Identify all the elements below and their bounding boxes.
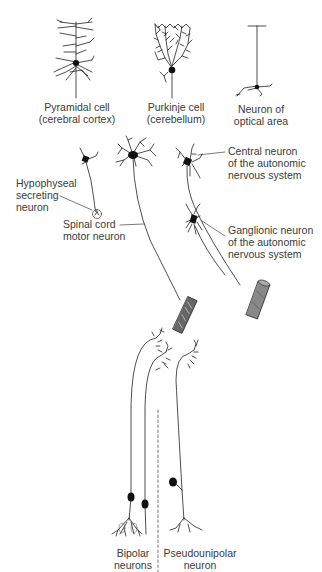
label-ganglionic-neuron: Ganglionic neuron of the autonomic nervo… — [228, 224, 313, 260]
purkinje-cell-drawing — [154, 24, 192, 98]
purkinje-soma — [169, 67, 176, 74]
label-optical-neuron: Neuron of optical area — [232, 103, 290, 127]
ganglionic-soma — [190, 214, 198, 223]
label-purkinje-cell: Purkinje cell (cerebellum) — [144, 101, 208, 125]
muscle-fiber-2 — [246, 279, 270, 319]
spinal-motor-neuron-drawing — [116, 136, 180, 300]
spinal-motor-soma — [128, 151, 138, 159]
bipolar-soma-2 — [142, 500, 149, 509]
hypophyseal-soma — [82, 155, 90, 163]
label-pyramidal-cell: Pyramidal cell (cerebral cortex) — [38, 101, 116, 125]
pyramidal-soma — [73, 60, 79, 66]
central-autonomic-soma — [183, 157, 192, 166]
label-pseudounipolar-neuron: Pseudounipolar neuron — [162, 547, 238, 571]
optical-neuron-drawing — [236, 26, 272, 96]
label-bipolar-neurons: Bipolar neurons — [112, 547, 154, 571]
label-central-autonomic-neuron: Central neuron of the autonomic nervous … — [228, 145, 306, 181]
label-hypophyseal-neuron: Hypophyseal secreting neuron — [16, 177, 77, 213]
neuron-types-diagram — [0, 0, 322, 572]
pseudounipolar-neuron-drawing — [170, 340, 202, 532]
label-spinal-motor-neuron: Spinal cord motor neuron — [63, 218, 125, 242]
pyramidal-cell-drawing — [54, 18, 94, 98]
bipolar-soma-1 — [128, 493, 135, 502]
pseudounipolar-soma — [169, 478, 177, 487]
muscle-fiber-1 — [173, 297, 197, 334]
optical-soma — [255, 85, 260, 90]
